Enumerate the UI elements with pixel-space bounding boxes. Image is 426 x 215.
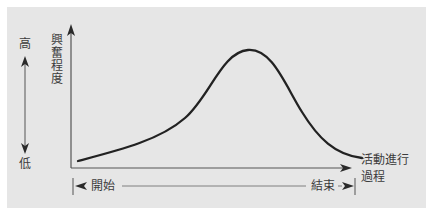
end-label: 結束 bbox=[311, 179, 335, 193]
low-label: 低 bbox=[19, 157, 31, 171]
high-label: 高 bbox=[19, 37, 31, 51]
x-axis-label-line2: 過程 bbox=[361, 170, 385, 184]
start-label: 開始 bbox=[91, 179, 115, 193]
y-axis bbox=[67, 24, 75, 168]
x-axis bbox=[71, 164, 352, 172]
y-axis-label: 興奮程度 bbox=[48, 33, 62, 85]
x-axis-label-line1: 活動進行 bbox=[361, 153, 409, 167]
excitement-curve bbox=[78, 50, 362, 161]
high-low-arrow bbox=[21, 56, 29, 154]
